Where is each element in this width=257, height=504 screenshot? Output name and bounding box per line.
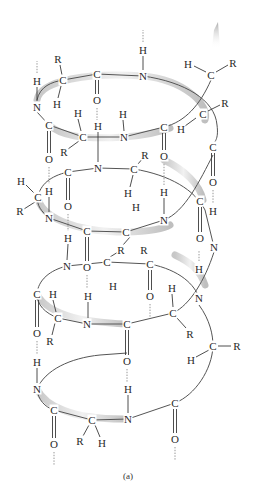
atom-r: R (186, 328, 194, 340)
atom-c: C (209, 141, 216, 153)
atom-n: N (210, 241, 218, 253)
atom-h: H (17, 175, 25, 187)
atom-o: O (171, 433, 179, 445)
atom-c: C (207, 69, 214, 81)
atom-c: C (196, 195, 203, 207)
atom-n: N (120, 131, 128, 143)
atom-h: H (187, 354, 195, 366)
atom-c: C (88, 414, 95, 426)
atom-o: O (146, 290, 154, 302)
atom-h: H (124, 383, 132, 395)
atom-n: N (33, 101, 41, 113)
atom-c: C (103, 256, 110, 268)
atom-o: O (209, 176, 217, 188)
atom-h: H (74, 107, 82, 119)
atom-c: C (199, 108, 206, 120)
atom-c: C (54, 312, 61, 324)
atom-h: H (195, 263, 203, 275)
atom-h: H (119, 108, 127, 120)
atom-r: R (60, 146, 68, 158)
atom-c: C (146, 258, 153, 270)
atom-c: C (93, 68, 100, 80)
atom-h: H (209, 205, 217, 217)
atom-c: C (171, 397, 178, 409)
atom-h: H (139, 44, 147, 56)
atom-r: R (221, 97, 229, 109)
atom-h: H (109, 280, 117, 292)
atom-h: H (64, 232, 72, 244)
atom-o: O (45, 153, 53, 165)
atom-c: C (45, 119, 52, 131)
atom-n: N (33, 383, 41, 395)
atom-n: N (83, 318, 91, 330)
helix-top-fade (212, 22, 220, 48)
atom-o: O (50, 438, 58, 450)
atom-o: O (196, 232, 204, 244)
atom-h: H (49, 288, 57, 300)
atom-c: C (79, 131, 86, 143)
atom-c: C (122, 226, 129, 238)
atom-n: N (124, 413, 132, 425)
atom-c: C (64, 166, 71, 178)
atom-r: R (140, 244, 148, 256)
atom-r: R (233, 340, 241, 352)
atom-h: H (94, 120, 102, 132)
atom-h: H (168, 282, 176, 294)
atom-n: N (195, 292, 203, 304)
atom-c: C (83, 225, 90, 237)
atom-h: H (45, 185, 53, 197)
atom-o: O (160, 150, 168, 162)
atom-c: C (34, 191, 41, 203)
atom-r: R (46, 335, 54, 347)
atom-c: C (59, 74, 66, 86)
atom-labels: HNHCRHCONHCRCRHHHHCCNCROCRONCCHHCHHOORCH… (16, 44, 242, 450)
atom-h: H (84, 290, 92, 302)
atom-n: N (63, 260, 71, 272)
atom-o: O (93, 94, 101, 106)
atom-o: O (33, 327, 41, 339)
atom-n: N (45, 212, 53, 224)
alpha-helix-diagram: HNHCRHCONHCRCRHHHHCCNCROCRONCCHHCHHOORCH… (0, 0, 257, 504)
atom-h: H (160, 186, 168, 198)
helix-backbone (37, 74, 217, 420)
atom-c: C (209, 340, 216, 352)
atom-c: C (123, 318, 130, 330)
atom-h: H (177, 123, 185, 135)
atom-n: N (160, 214, 168, 226)
atom-r: R (117, 244, 125, 256)
atom-o: O (123, 355, 131, 367)
atom-c: C (169, 307, 176, 319)
atom-h: H (33, 75, 41, 87)
atom-o: O (64, 200, 72, 212)
atom-c: C (130, 163, 137, 175)
atom-h: H (132, 201, 140, 213)
atom-n: N (94, 162, 102, 174)
atom-o: O (83, 261, 91, 273)
atom-h: H (184, 58, 192, 70)
figure-caption: (a) (123, 471, 133, 481)
atom-c: C (50, 404, 57, 416)
atom-c: C (160, 121, 167, 133)
atom-h: H (53, 98, 61, 110)
atom-n: N (139, 70, 147, 82)
atom-r: R (16, 205, 24, 217)
atom-h: H (33, 356, 41, 368)
atom-h: H (98, 437, 106, 449)
atom-r: R (76, 435, 84, 447)
atom-r: R (229, 57, 237, 69)
atom-r: R (141, 149, 149, 161)
atom-r: R (54, 53, 62, 65)
atom-h: H (124, 187, 132, 199)
atom-c: C (33, 288, 40, 300)
